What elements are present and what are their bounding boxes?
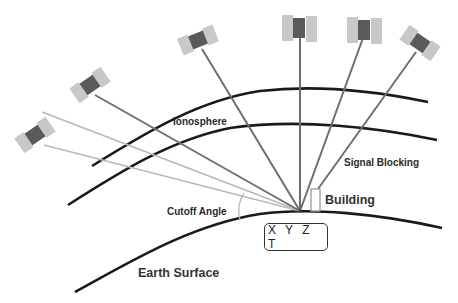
cutoff-angle-label: Cutoff Angle	[167, 206, 227, 217]
satellite-icon	[347, 17, 382, 44]
receiver-point	[298, 209, 301, 212]
ionosphere-label: Ionosphere	[173, 116, 227, 127]
satellite-icon	[282, 15, 317, 42]
satellite-icon	[399, 25, 440, 62]
building-shape	[311, 189, 320, 211]
signal-blocking-label: Signal Blocking	[344, 157, 419, 168]
receiver-position-box: X Y Z T	[264, 223, 328, 251]
satellite-icon	[177, 25, 219, 56]
receiver-position-label: X Y Z T	[265, 223, 327, 251]
satellite-icon	[69, 67, 110, 104]
signal-ray-sat-2	[95, 95, 300, 211]
earth-surface-label: Earth Surface	[138, 266, 219, 280]
satellite-icon	[14, 117, 55, 154]
gnss-diagram	[0, 0, 458, 303]
earth-surface-line	[75, 211, 442, 292]
building-label: Building	[325, 193, 375, 207]
cutoff-ray-lower	[44, 145, 300, 211]
ionosphere-upper-boundary	[92, 88, 428, 166]
